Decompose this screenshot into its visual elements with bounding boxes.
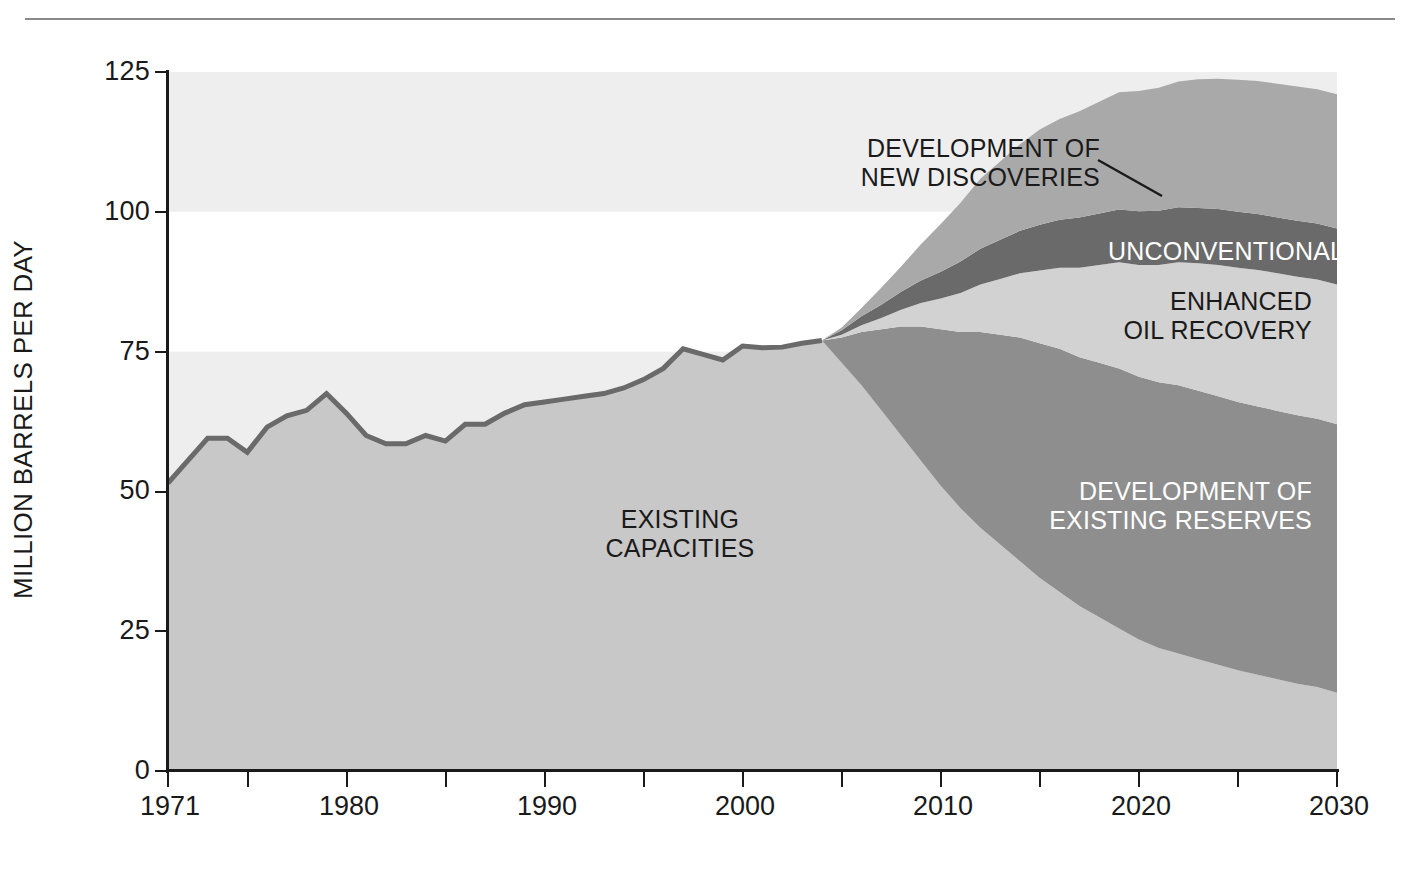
x-tick-mark-2000	[742, 772, 744, 787]
annotation-existing-reserves: DEVELOPMENT OF EXISTING RESERVES	[1000, 477, 1312, 536]
x-tick-mark-1975	[247, 772, 249, 787]
x-tick-label-1990: 1990	[517, 793, 577, 820]
x-tick-label-2010: 2010	[913, 793, 973, 820]
y-tick-label-125: 125	[104, 58, 150, 85]
x-tick-label-1971: 1971	[140, 793, 200, 820]
y-tick-label-25: 25	[120, 617, 150, 644]
annotation-existing-capacities: EXISTING CAPACITIES	[540, 505, 820, 564]
x-tick-mark-2020	[1138, 772, 1140, 787]
x-tick-label-1980: 1980	[319, 793, 379, 820]
x-tick-label-2030: 2030	[1309, 793, 1369, 820]
x-tick-mark-2005	[841, 772, 843, 787]
x-tick-mark-1990	[544, 772, 546, 787]
x-tick-mark-2015	[1039, 772, 1041, 787]
top-divider-rule	[25, 18, 1395, 20]
y-axis-title: MILLION BARRELS PER DAY	[8, 185, 39, 655]
x-tick-label-2000: 2000	[715, 793, 775, 820]
x-tick-mark-2010	[940, 772, 942, 787]
x-tick-mark-1980	[346, 772, 348, 787]
y-tick-label-50: 50	[120, 477, 150, 504]
y-axis-line	[166, 70, 169, 773]
x-tick-mark-1995	[643, 772, 645, 787]
chart-figure: 125 100 75 50 25 0 MILLION BARRELS PER D…	[0, 0, 1417, 877]
x-axis-line	[166, 769, 1339, 772]
x-tick-mark-2030	[1336, 772, 1338, 787]
annotation-unconventional: UNCONVENTIONAL	[1108, 237, 1408, 266]
annotation-enhanced-oil-recovery: ENHANCED OIL RECOVERY	[1000, 287, 1312, 346]
x-tick-mark-1971	[167, 772, 169, 787]
y-tick-label-0: 0	[135, 757, 150, 784]
y-tick-label-100: 100	[104, 198, 150, 225]
x-tick-mark-2025	[1237, 772, 1239, 787]
x-tick-label-2020: 2020	[1111, 793, 1171, 820]
x-tick-mark-1985	[445, 772, 447, 787]
annotation-new-discoveries: DEVELOPMENT OF NEW DISCOVERIES	[700, 134, 1100, 193]
y-tick-label-75: 75	[120, 338, 150, 365]
